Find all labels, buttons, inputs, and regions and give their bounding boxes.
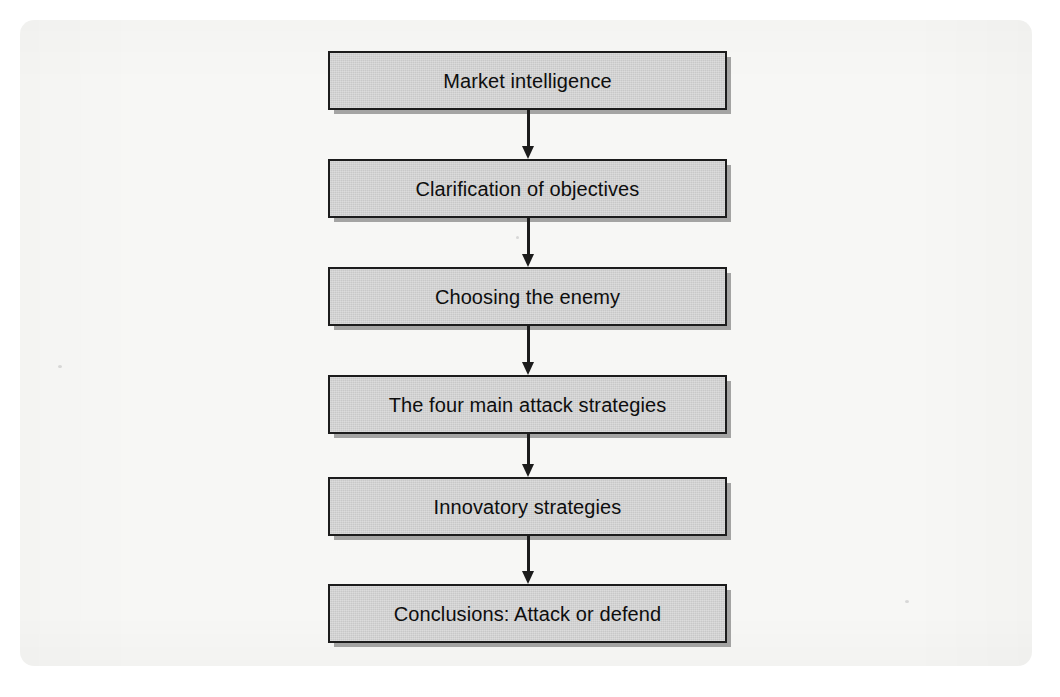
flow-node-label: Innovatory strategies <box>434 497 622 517</box>
flow-node-label: Conclusions: Attack or defend <box>394 604 662 624</box>
flow-node-market-intelligence[interactable]: Market intelligence <box>328 51 727 110</box>
arrow-head <box>522 362 534 375</box>
flow-node-four-main-attack-strategies[interactable]: The four main attack strategies <box>328 375 727 434</box>
arrow-shaft <box>527 110 530 148</box>
flowchart: Market intelligence Clarification of obj… <box>0 0 1060 697</box>
flow-node-innovatory-strategies[interactable]: Innovatory strategies <box>328 477 727 536</box>
arrow-shaft <box>527 326 530 364</box>
flow-arrow-down-icon <box>517 536 539 584</box>
flow-arrow-down-icon <box>517 326 539 375</box>
flow-node-label: Market intelligence <box>443 71 612 91</box>
arrow-shaft <box>527 434 530 466</box>
flow-node-label: Clarification of objectives <box>416 179 640 199</box>
flow-node-clarification-of-objectives[interactable]: Clarification of objectives <box>328 159 727 218</box>
flow-node-label: The four main attack strategies <box>389 395 667 415</box>
flow-node-choosing-the-enemy[interactable]: Choosing the enemy <box>328 267 727 326</box>
page-root: Market intelligence Clarification of obj… <box>0 0 1060 697</box>
arrow-head <box>522 254 534 267</box>
arrow-shaft <box>527 536 530 573</box>
arrow-head <box>522 571 534 584</box>
flow-arrow-down-icon <box>517 218 539 267</box>
flow-arrow-down-icon <box>517 434 539 477</box>
flow-arrow-down-icon <box>517 110 539 159</box>
arrow-head <box>522 464 534 477</box>
flow-node-label: Choosing the enemy <box>435 287 620 307</box>
arrow-shaft <box>527 218 530 256</box>
flow-node-conclusions-attack-or-defend[interactable]: Conclusions: Attack or defend <box>328 584 727 643</box>
arrow-head <box>522 146 534 159</box>
